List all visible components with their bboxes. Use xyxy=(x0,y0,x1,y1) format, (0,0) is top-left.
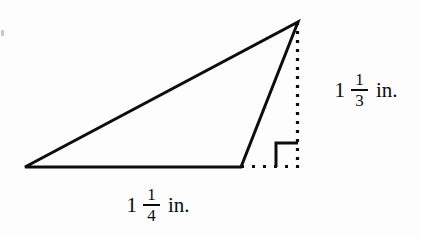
height-denominator: 3 xyxy=(352,91,367,109)
triangle-figure: 1 1 4 in. 1 1 3 in. xyxy=(0,0,421,237)
base-measurement-label: 1 1 4 in. xyxy=(104,182,212,228)
triangle-outline xyxy=(25,22,298,167)
base-whole-number: 1 xyxy=(126,195,137,216)
height-numerator: 1 xyxy=(352,71,367,89)
right-angle-marker xyxy=(276,143,298,167)
height-unit: in. xyxy=(376,80,398,101)
base-numerator: 1 xyxy=(144,186,159,204)
height-measurement-label: 1 1 3 in. xyxy=(316,66,416,114)
base-denominator: 4 xyxy=(144,206,159,224)
height-whole-number: 1 xyxy=(334,80,345,101)
base-fraction: 1 4 xyxy=(143,186,160,225)
base-unit: in. xyxy=(168,195,190,216)
height-fraction: 1 3 xyxy=(351,71,368,110)
